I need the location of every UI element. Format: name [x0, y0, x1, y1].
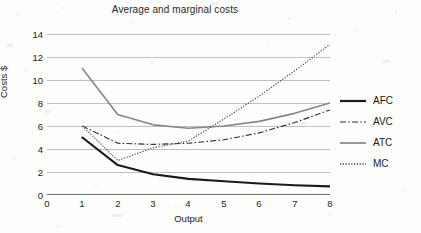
legend-label: AFC	[366, 95, 393, 106]
legend-item-atc: ATC	[340, 132, 418, 153]
x-tick-label: 1	[70, 199, 94, 209]
legend-item-afc: AFC	[340, 90, 418, 111]
chart-figure: Average and marginal costs 14 12 10 8 6 …	[0, 0, 421, 233]
legend-swatch-dash-dot-icon	[340, 116, 366, 128]
series-line-afc	[82, 138, 330, 187]
y-tick-label: 10	[3, 76, 43, 86]
y-axis-label: Costs $	[0, 66, 9, 98]
x-tick-label: 4	[176, 199, 200, 209]
y-tick-label: 4	[3, 145, 43, 155]
y-tick-label: 8	[3, 99, 43, 109]
x-tick-label: 3	[141, 199, 165, 209]
legend-item-mc: MC	[340, 153, 418, 174]
y-tick-label: 6	[3, 122, 43, 132]
chart-title: Average and marginal costs	[0, 4, 350, 15]
x-tick-label: 2	[106, 199, 130, 209]
legend-swatch-solid-thick-icon	[340, 95, 366, 107]
legend-label: ATC	[366, 137, 392, 148]
x-tick-label: 5	[212, 199, 236, 209]
x-tick-label: 7	[283, 199, 307, 209]
legend-item-avc: AVC	[340, 111, 418, 132]
chart-legend: AFC AVC ATC MC	[340, 90, 418, 174]
plot-area	[47, 34, 330, 195]
y-tick-label: 2	[3, 168, 43, 178]
x-axis-ticks: 0 1 2 3 4 5 6 7 8	[0, 199, 421, 213]
y-tick-label: 14	[3, 30, 43, 40]
x-axis-label: Output	[47, 213, 330, 224]
legend-swatch-dotted-icon	[340, 158, 366, 170]
legend-swatch-solid-gray-icon	[340, 137, 366, 149]
gridlines	[47, 35, 330, 173]
x-tick-label: 8	[318, 199, 342, 209]
series-line-atc	[82, 69, 330, 129]
y-tick-label: 12	[3, 53, 43, 63]
legend-label: AVC	[366, 116, 393, 127]
legend-label: MC	[366, 158, 389, 169]
x-tick-label: 6	[247, 199, 271, 209]
x-tick-label: 0	[35, 199, 59, 209]
